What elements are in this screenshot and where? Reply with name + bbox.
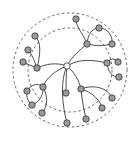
tree-node-n14 bbox=[29, 102, 35, 108]
tree-node-n15 bbox=[39, 110, 45, 116]
root-node bbox=[64, 63, 70, 69]
edge-root-n8 bbox=[37, 64, 67, 68]
tree-node-n12 bbox=[40, 84, 46, 90]
dashed-rings bbox=[13, 13, 127, 127]
tree-node-n9 bbox=[104, 60, 110, 66]
tree-node-n4 bbox=[109, 41, 115, 47]
tree-node-n5 bbox=[32, 33, 38, 39]
tree-node-n16 bbox=[63, 90, 69, 96]
tree-node-n7 bbox=[20, 59, 26, 65]
edge-n3-n1 bbox=[76, 19, 87, 44]
edge-root-n16 bbox=[66, 66, 67, 93]
edge-n8-n5 bbox=[35, 36, 40, 68]
edge-n17-n19 bbox=[81, 89, 102, 108]
edge-root-n17 bbox=[67, 66, 81, 89]
inner-ring bbox=[28, 28, 112, 112]
tree-node-n19 bbox=[99, 105, 105, 111]
radial-tree-diagram bbox=[0, 0, 139, 142]
tree-node-n10 bbox=[115, 59, 121, 65]
outer-ring bbox=[13, 13, 127, 127]
tree-nodes bbox=[20, 16, 122, 126]
tree-node-n8 bbox=[34, 65, 40, 71]
tree-node-n11 bbox=[116, 74, 122, 80]
edge-n17-n20 bbox=[81, 89, 86, 119]
tree-node-n6 bbox=[25, 47, 31, 53]
edge-n3-n4 bbox=[87, 44, 112, 46]
tree-node-n21 bbox=[64, 120, 70, 126]
tree-node-n18 bbox=[109, 95, 115, 101]
edge-n17-n18 bbox=[81, 87, 112, 98]
tree-node-n17 bbox=[78, 86, 84, 92]
tree-node-n20 bbox=[83, 116, 89, 122]
edge-root-n3 bbox=[67, 44, 87, 66]
tree-node-n2 bbox=[96, 25, 102, 31]
tree-node-n13 bbox=[24, 88, 30, 94]
tree-node-n3 bbox=[84, 41, 90, 47]
tree-node-n1 bbox=[73, 16, 79, 22]
edge-root-n9 bbox=[67, 60, 107, 66]
